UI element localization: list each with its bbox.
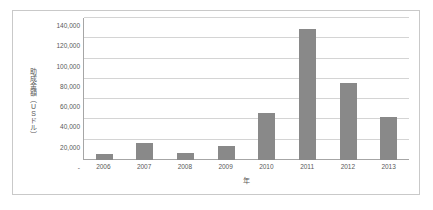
bar (258, 113, 275, 160)
bar-cell (125, 18, 166, 160)
bar (136, 143, 153, 160)
y-axis-tick-label: 140,000 (57, 22, 81, 29)
bar-cell (165, 18, 206, 160)
y-axis-tick-label: 20,000 (60, 143, 80, 150)
x-axis-tick-labels: 20062007200820092010201120122013 (83, 163, 409, 170)
y-axis-tick-label: 40,000 (60, 123, 80, 130)
y-axis-tick-label: 60,000 (60, 103, 80, 110)
x-axis-tick-label: 2012 (328, 163, 369, 170)
bar-cell (328, 18, 369, 160)
x-axis-title: 年 (83, 175, 409, 185)
bar (299, 29, 316, 160)
x-axis-tick-label: 2013 (368, 163, 409, 170)
bar-cell (368, 18, 409, 160)
bar-series (84, 18, 409, 160)
bar-cell (84, 18, 125, 160)
x-axis-tick-label: 2007 (124, 163, 165, 170)
bar (218, 146, 235, 160)
bar-cell (247, 18, 288, 160)
bar (380, 117, 397, 160)
bar-cell (287, 18, 328, 160)
y-axis-tick-label: 100,000 (57, 62, 81, 69)
bar (340, 83, 357, 160)
x-axis-tick-label: 2008 (165, 163, 206, 170)
x-axis-tick-label: 2009 (205, 163, 246, 170)
x-axis-tick-label: 2006 (83, 163, 124, 170)
bar (96, 154, 113, 160)
y-axis-title: 助成金額（USドル） (26, 43, 40, 163)
plot-area (83, 18, 409, 160)
y-axis-title-text: 助成金額（USドル） (29, 68, 37, 138)
y-axis-tick-label: 120,000 (57, 42, 81, 49)
bar-cell (206, 18, 247, 160)
y-axis-tick-label: 80,000 (60, 82, 80, 89)
y-axis-tick-labels: -20,00040,00060,00080,000100,000120,0001… (39, 18, 83, 160)
bar (177, 153, 194, 160)
y-axis-tick-label: - (78, 164, 80, 171)
chart-figure: 助成金額（USドル） -20,00040,00060,00080,000100,… (12, 10, 420, 195)
x-axis-tick-label: 2010 (246, 163, 287, 170)
x-axis-tick-label: 2011 (287, 163, 328, 170)
